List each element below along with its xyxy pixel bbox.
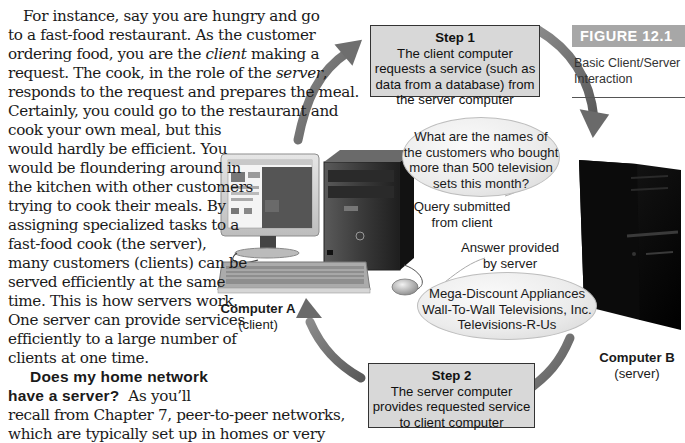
text-line: recall from Chapter 7, peer-to-peer netw… [8, 406, 345, 424]
step2-box: Step 2 The server computer provides requ… [368, 363, 535, 428]
text-line: fast-food cook (the server), [8, 235, 206, 253]
text-line: served efficiently at the same [8, 273, 225, 291]
text-line: to a fast-food restaurant. As the custom… [8, 26, 316, 44]
text-line: the kitchen with other customers [8, 178, 253, 196]
text-line: which are typically set up in homes or v… [8, 425, 325, 443]
query-label: Query submitted from client [412, 199, 512, 230]
text-line: cook your own meal, but this [8, 121, 221, 139]
text-line: would hardly be efficient. You [8, 140, 227, 158]
emphasis-client: client [206, 45, 247, 63]
answer-label: Answer provided by server [455, 240, 565, 271]
text-line: trying to cook their meals. By [8, 197, 226, 215]
figure-caption: Basic Client/Server Interaction [574, 55, 680, 87]
computer-b-label: Computer B (server) [587, 350, 685, 381]
text-line: For instance, say you are hungry and go [23, 7, 320, 25]
answer-bubble: Mega-Discount Appliances Wall-To-Wall Te… [417, 272, 597, 340]
text-line: responds to the request and prepares the… [8, 83, 359, 101]
emphasis-server: server [276, 64, 323, 82]
step2-title: Step 2 [369, 368, 534, 384]
text-line: many customers (clients) can be [8, 254, 247, 272]
text-line: would be floundering around in [8, 159, 241, 177]
text-line: efficiently to a large number of [8, 330, 237, 348]
text-line: request. The cook, in the role of the se… [8, 64, 327, 82]
query-bubble: What are the names of the customers who … [402, 117, 560, 197]
caption-divider [572, 97, 685, 98]
section-heading-cont: have a server? [8, 387, 119, 404]
text-line: clients at one time. [8, 349, 149, 367]
step1-box: Step 1 The client computer requests a se… [370, 25, 540, 97]
text-line: ordering food, you are the client making… [8, 45, 319, 63]
computer-a-label: Computer A (client) [208, 301, 308, 332]
section-heading: Does my home network [30, 368, 208, 386]
figure-number-tag: FIGURE 12.1 [572, 25, 685, 47]
text-line: assigning specialized tasks to a [8, 216, 239, 234]
text-line: Certainly, you could go to the restauran… [8, 102, 338, 120]
step1-title: Step 1 [371, 30, 539, 46]
text-line: have a server? As you’ll [8, 387, 191, 405]
text-line: time. This is how servers work. [8, 292, 238, 310]
